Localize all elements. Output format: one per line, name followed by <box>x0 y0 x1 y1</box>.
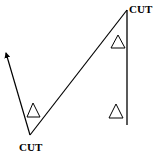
triangle-icon-left <box>27 103 40 117</box>
arrow-line <box>6 53 30 135</box>
cut-diagram: CUT CUT <box>0 0 156 155</box>
triangle-icon-upper-right <box>111 35 125 48</box>
diagonal-line <box>30 10 127 135</box>
bottom-cut-label: CUT <box>19 141 43 153</box>
top-cut-label: CUT <box>129 3 153 15</box>
triangle-icon-lower-right <box>109 104 123 118</box>
